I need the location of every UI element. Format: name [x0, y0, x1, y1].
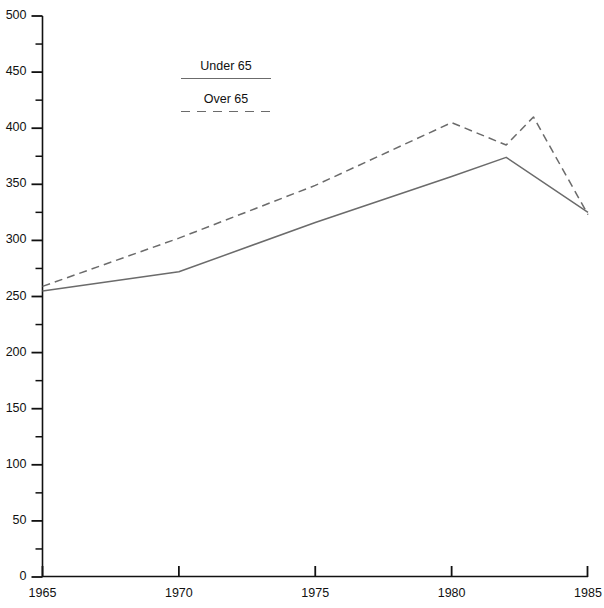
y-tick-label: 400 [0, 120, 27, 134]
x-axis-ticks [43, 566, 588, 577]
x-tick-label: 1970 [149, 586, 209, 600]
legend-label-under-65: Under 65 [176, 58, 276, 74]
line-chart: 050100150200250300350400450500 196519701… [0, 0, 604, 608]
x-tick-label: 1965 [13, 586, 73, 600]
legend-swatch-dashed [181, 111, 271, 112]
y-tick-label: 100 [0, 457, 27, 471]
y-tick-label: 150 [0, 401, 27, 415]
y-tick-label: 200 [0, 345, 27, 359]
y-axis-ticks [32, 16, 43, 577]
legend: Under 65 Over 65 [176, 58, 276, 124]
legend-entry-over-65: Over 65 [176, 91, 276, 124]
plot-area [0, 0, 604, 608]
y-tick-label: 450 [0, 64, 27, 78]
x-tick-label: 1985 [558, 586, 604, 600]
y-tick-label: 50 [0, 513, 27, 527]
y-tick-label: 0 [0, 569, 27, 583]
y-tick-label: 500 [0, 8, 27, 22]
y-tick-label: 300 [0, 232, 27, 246]
x-tick-label: 1980 [422, 586, 482, 600]
x-tick-label: 1975 [285, 586, 345, 600]
legend-swatch-solid [181, 78, 271, 79]
series-line-over-65 [43, 117, 589, 286]
series-line-under-65 [43, 157, 589, 291]
legend-entry-under-65: Under 65 [176, 58, 276, 91]
y-tick-label: 250 [0, 289, 27, 303]
series-layer [43, 117, 589, 291]
y-tick-label: 350 [0, 176, 27, 190]
legend-label-over-65: Over 65 [176, 91, 276, 107]
